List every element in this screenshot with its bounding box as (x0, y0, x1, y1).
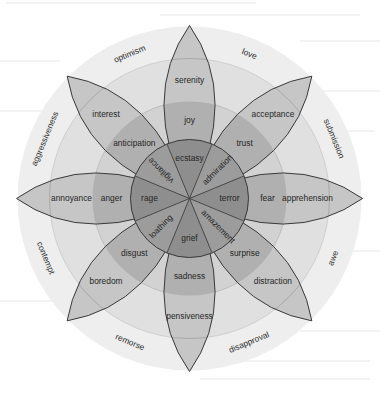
emotion-label-basic: joy (183, 115, 196, 125)
emotion-label-mild: pensiveness (166, 311, 213, 321)
emotion-label-mild: boredom (90, 276, 123, 286)
emotion-label-mild: annoyance (51, 193, 92, 203)
emotion-label-intense: terror (219, 193, 239, 203)
emotion-label-intense: grief (181, 233, 198, 243)
emotion-label-mild: interest (92, 109, 120, 119)
emotion-label-basic: disgust (121, 248, 148, 258)
emotion-label-basic: anger (101, 193, 123, 203)
emotion-label-basic: sadness (174, 271, 205, 281)
emotion-label-mild: distraction (254, 276, 293, 286)
emotion-wheel: serenityjoyecstasyacceptancetrustadmirat… (0, 0, 380, 398)
emotion-label-mild: serenity (175, 75, 205, 85)
emotion-label-basic: surprise (230, 248, 260, 258)
emotion-label-basic: fear (260, 193, 275, 203)
emotion-label-basic: anticipation (113, 138, 156, 148)
emotion-label-intense: rage (141, 193, 158, 203)
emotion-label-mild: apprehension (282, 193, 333, 203)
emotion-label-mild: acceptance (252, 109, 295, 119)
emotion-label-basic: trust (237, 138, 254, 148)
emotion-label-intense: ecstasy (175, 153, 204, 163)
